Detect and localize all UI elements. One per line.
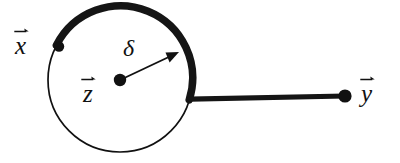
point-z-dot: [114, 74, 126, 86]
label-y-letter: y: [361, 81, 372, 106]
label-delta: δ: [123, 36, 134, 60]
diagram-svg: [0, 0, 400, 163]
point-y-dot: [338, 89, 351, 102]
figure-canvas: x z y δ: [0, 0, 400, 163]
label-z-letter: z: [83, 81, 93, 106]
point-x-dot: [54, 41, 64, 51]
label-x-letter: x: [15, 33, 26, 58]
label-x-vector: x: [15, 24, 26, 58]
segment-to-y: [190, 96, 345, 99]
label-z-vector: z: [83, 72, 93, 106]
label-y-vector: y: [361, 72, 372, 106]
